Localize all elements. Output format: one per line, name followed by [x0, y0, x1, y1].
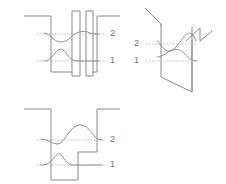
right-lower-body: [161, 40, 192, 92]
bottom-diagram: 2 1: [24, 109, 120, 180]
top-left-diagram: 2 1: [24, 11, 120, 76]
bottom-label-1: 1: [110, 159, 115, 169]
bottom-lower-wave: [41, 154, 102, 165]
bottom-outline: [24, 109, 120, 180]
right-label-2: 2: [134, 38, 139, 48]
right-chevron-icon: [186, 28, 212, 41]
top-left-bar-right: [86, 11, 93, 76]
right-lower-wave: [157, 49, 197, 61]
bottom-label-2: 2: [110, 134, 115, 144]
bottom-upper-wave: [41, 125, 102, 144]
right-lead-in: [145, 8, 161, 26]
top-left-label-2: 2: [110, 28, 115, 38]
schematic-diagram-svg: 2 1 2 1: [0, 0, 226, 184]
top-left-bar-left: [72, 11, 80, 76]
right-label-1: 1: [134, 55, 139, 65]
figure-canvas: 2 1 2 1: [0, 0, 226, 184]
right-upper-wave: [157, 33, 196, 51]
top-left-label-1: 1: [110, 55, 115, 65]
right-diagram: 2 1: [134, 8, 212, 92]
